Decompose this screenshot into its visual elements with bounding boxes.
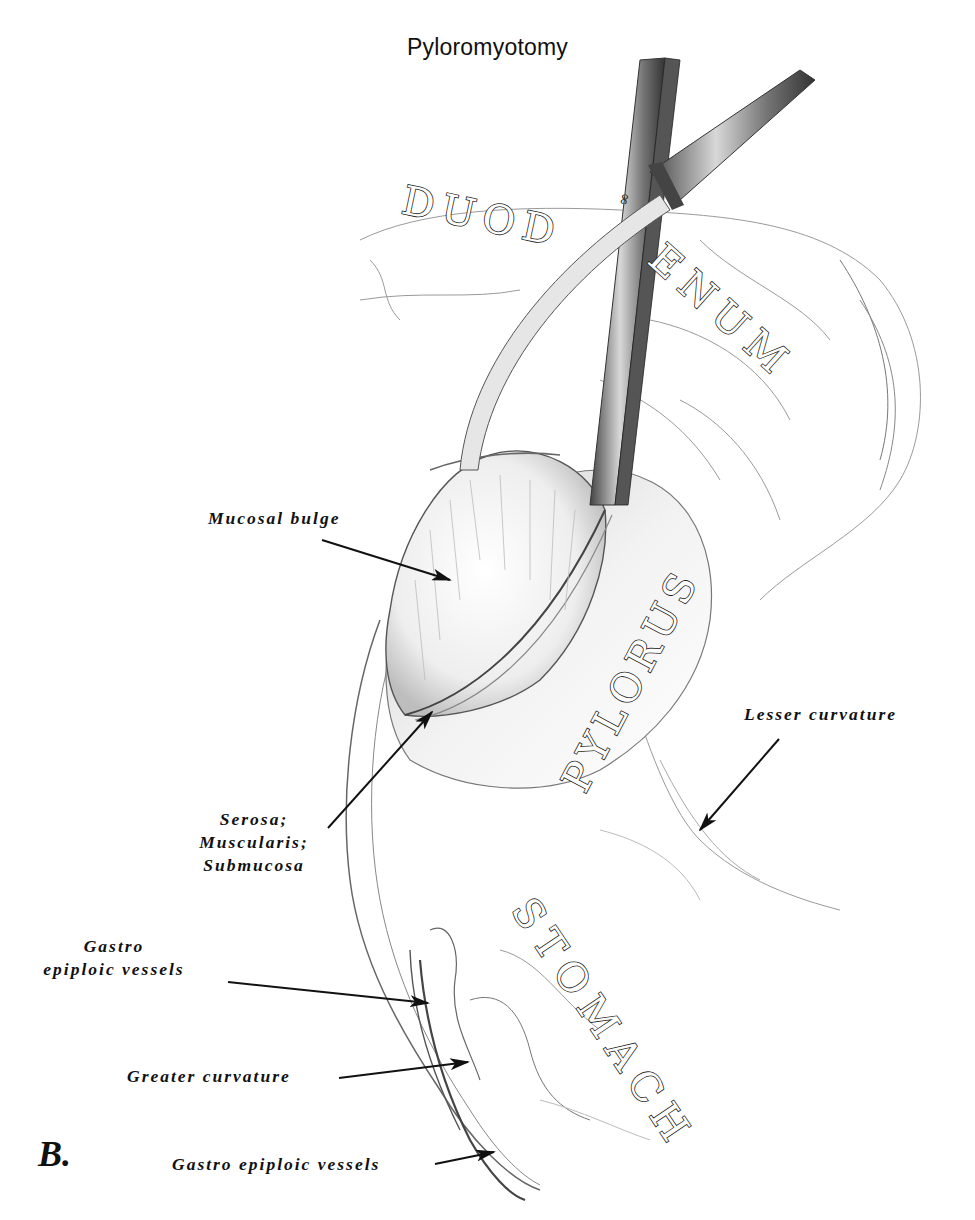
callout-text: Lesser curvature: [744, 704, 897, 724]
label-duodenum-part1: DUOD: [398, 177, 567, 256]
callout-text: Gastro epiploic vessels: [172, 1154, 380, 1174]
arrow-serosa-layers: [328, 712, 432, 828]
callout-lesser-curvature: Lesser curvature: [744, 703, 897, 726]
callout-text: Serosa;: [184, 808, 324, 831]
callout-gastro-epiploic-vessels-upper: Gastro epiploic vessels: [28, 935, 200, 981]
callout-text: Muscularis;: [184, 831, 324, 854]
callout-text: Greater curvature: [127, 1066, 291, 1086]
callout-mucosal-bulge: Mucosal bulge: [208, 507, 340, 530]
surgical-spreader-drawing: ∞: [460, 58, 815, 505]
callout-text: Gastro: [28, 935, 200, 958]
label-stomach: STOMACH: [503, 889, 705, 1157]
callout-text: Mucosal bulge: [208, 508, 340, 528]
callout-gastro-epiploic-vessels-lower: Gastro epiploic vessels: [172, 1153, 380, 1176]
label-duodenum-part2: ENUM: [640, 235, 804, 389]
callout-text: epiploic vessels: [28, 958, 200, 981]
arrow-gastro-epiploic-upper: [228, 982, 428, 1003]
anatomical-illustration: ∞ DUOD ENUM PYLORUS STOMACH: [0, 0, 975, 1220]
callout-serosa-muscularis-submucosa: Serosa; Muscularis; Submucosa: [184, 808, 324, 877]
panel-letter: B.: [38, 1133, 71, 1175]
arrow-lesser-curvature: [700, 739, 779, 830]
callout-greater-curvature: Greater curvature: [127, 1065, 291, 1088]
callout-text: Submucosa: [184, 854, 324, 877]
